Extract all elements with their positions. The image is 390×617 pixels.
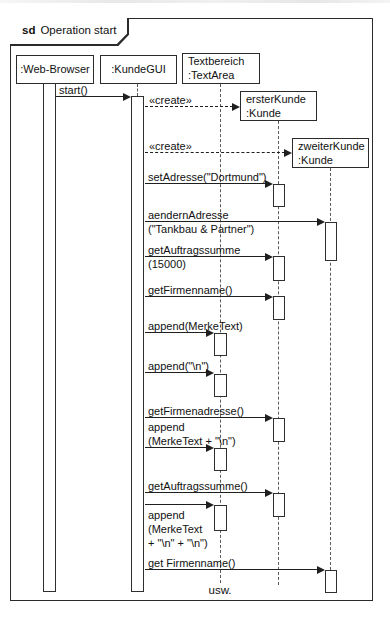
arrowhead-getauftragssumme xyxy=(265,489,273,497)
message-label-create-2: «create» xyxy=(149,139,192,153)
activation-ersterkunde-1 xyxy=(273,184,285,207)
participant-ersterkunde: ersterKunde :Kunde xyxy=(240,91,317,121)
message-label-start: start() xyxy=(59,83,88,97)
message-label-append-merketext-two-newlines: append (MerkeText + "\n" + "\n") xyxy=(148,508,208,550)
participant-web-browser: :Web-Browser xyxy=(16,55,94,84)
message-label-append-merketext: append(MerkeText) xyxy=(148,319,243,333)
arrowhead-getfirmenname xyxy=(265,293,273,301)
message-label-getfirmenadresse: getFirmenadresse() xyxy=(148,404,244,418)
message-label-append-newline: append("\n") xyxy=(148,359,209,373)
arrowhead-create-zweiterkunde xyxy=(284,149,292,157)
continuation-label: usw. xyxy=(198,584,242,596)
sequence-diagram: sdOperation start start() «cr xyxy=(0,0,390,617)
activation-zweiterkunde-2 xyxy=(325,570,337,593)
arrowhead-getauftragssumme-15000 xyxy=(265,253,273,261)
activation-zweiterkunde-1 xyxy=(325,222,337,261)
frame-keyword: sd xyxy=(22,24,35,36)
arrowhead-aendernadresse xyxy=(317,218,325,226)
participant-textbereich: Textbereich :TextArea xyxy=(182,53,260,84)
activation-textbereich-2 xyxy=(214,374,227,397)
activation-web-browser xyxy=(43,83,56,592)
arrowhead-create-ersterkunde xyxy=(232,103,240,111)
message-label-setadresse: setAdresse("Dortmund") xyxy=(148,170,266,184)
activation-ersterkunde-4 xyxy=(273,418,285,442)
arrowhead-get-firmenname xyxy=(317,566,325,574)
activation-ersterkunde-5 xyxy=(273,493,285,517)
message-label-getauftragssumme: getAuftragssumme() xyxy=(148,479,248,493)
arrowhead-getfirmenadresse xyxy=(265,414,273,422)
message-label-getfirmenname: getFirmenname() xyxy=(148,283,232,297)
activation-kundegui xyxy=(131,96,144,592)
activation-textbereich-1 xyxy=(214,333,227,356)
message-label-getauftragssumme-15000: getAuftragssumme (15000) xyxy=(148,243,240,271)
participant-kundegui: :KundeGUI xyxy=(100,55,177,84)
message-label-append-merketext-newline: append (MerkeText + "\n") xyxy=(148,420,236,448)
cropped-page-artifact xyxy=(0,0,390,3)
lifeline-kundegui-stub xyxy=(137,84,138,96)
activation-ersterkunde-2 xyxy=(273,256,285,281)
message-label-get-firmenname: get Firmenname() xyxy=(148,556,235,570)
message-label-aendernadresse: aendernAdresse ("Tankbau & Partner") xyxy=(148,208,254,236)
message-label-create-1: «create» xyxy=(149,93,192,107)
participant-zweiterkunde: zweiterKunde :Kunde xyxy=(292,138,369,168)
frame-title: sdOperation start xyxy=(22,24,117,36)
frame-title-text: Operation start xyxy=(40,24,116,36)
arrowhead-start xyxy=(123,93,131,101)
activation-ersterkunde-3 xyxy=(273,296,285,320)
activation-textbereich-3 xyxy=(214,448,227,471)
arrow-append-merketext-two-newlines xyxy=(145,504,207,505)
activation-textbereich-4 xyxy=(214,505,227,531)
